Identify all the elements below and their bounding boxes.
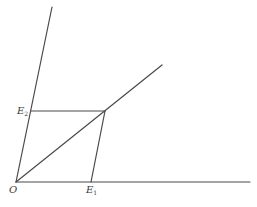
diagram-svg: [0, 0, 257, 207]
axis-2-line: [16, 7, 52, 182]
parallel-to-axis-2-line: [91, 111, 105, 182]
e2-label: E2: [17, 106, 28, 117]
origin-label: O: [9, 185, 17, 195]
diagram-canvas: O E1 E2: [0, 0, 257, 207]
diagonal-vector-line: [16, 65, 162, 182]
e1-label: E1: [86, 185, 97, 196]
